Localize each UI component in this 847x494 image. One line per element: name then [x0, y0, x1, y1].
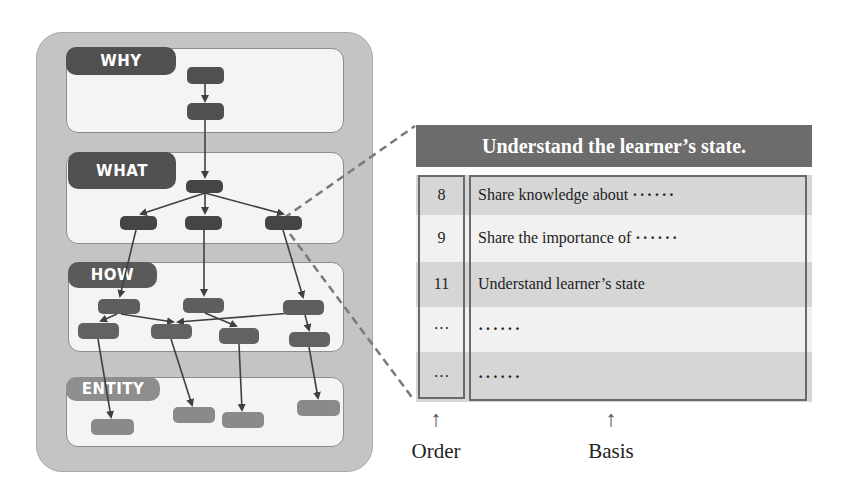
- node-how-1c: [283, 300, 324, 315]
- basis-caption: Basis: [588, 439, 634, 464]
- basis-text: Share knowledge about: [478, 186, 628, 203]
- zoom-dashed-line-top: [284, 126, 415, 218]
- node-how-2a: [78, 323, 119, 339]
- diagram-figure: WHY WHAT HOW ENTITY: [0, 0, 847, 494]
- order-cell: ···: [418, 368, 465, 386]
- up-arrow-icon: ↑: [431, 406, 442, 432]
- basis-text: Share the importance of: [478, 229, 631, 246]
- node-what-mid: [185, 216, 222, 230]
- ellipsis-dots: ······: [635, 229, 679, 246]
- node-entity-2: [173, 407, 215, 423]
- order-cell: 11: [418, 275, 465, 293]
- node-entity-3: [222, 412, 264, 428]
- up-arrow-icon: ↑: [606, 406, 617, 432]
- node-what-left: [120, 216, 157, 230]
- basis-cell: Understand learner’s state: [478, 275, 645, 293]
- node-why-2: [187, 103, 224, 120]
- basis-cell: ······: [478, 320, 522, 338]
- ellipsis-dots: ······: [478, 368, 522, 385]
- basis-text: Understand learner’s state: [478, 275, 645, 292]
- order-cell: 8: [418, 186, 465, 204]
- basis-cell: Share knowledge about ······: [478, 186, 676, 204]
- order-cell: ···: [418, 320, 465, 338]
- zoom-dashed-line-bottom: [290, 234, 414, 400]
- order-cell: 9: [418, 229, 465, 247]
- basis-cell: ······: [478, 368, 522, 386]
- node-how-1b: [183, 298, 224, 313]
- node-how-2d: [289, 332, 330, 347]
- table-title: Understand the learner’s state.: [416, 125, 812, 167]
- node-how-2b: [151, 324, 192, 339]
- node-entity-4: [297, 400, 340, 416]
- ellipsis-dots: ······: [478, 320, 522, 337]
- node-what-top: [186, 180, 223, 193]
- node-how-2c: [219, 328, 259, 344]
- node-entity-1: [91, 419, 134, 435]
- node-what-right: [265, 216, 302, 230]
- node-why-1: [187, 67, 224, 84]
- ellipsis-dots: ······: [632, 186, 676, 203]
- order-caption: Order: [412, 439, 461, 464]
- node-how-1a: [98, 299, 140, 314]
- basis-cell: Share the importance of ······: [478, 229, 679, 247]
